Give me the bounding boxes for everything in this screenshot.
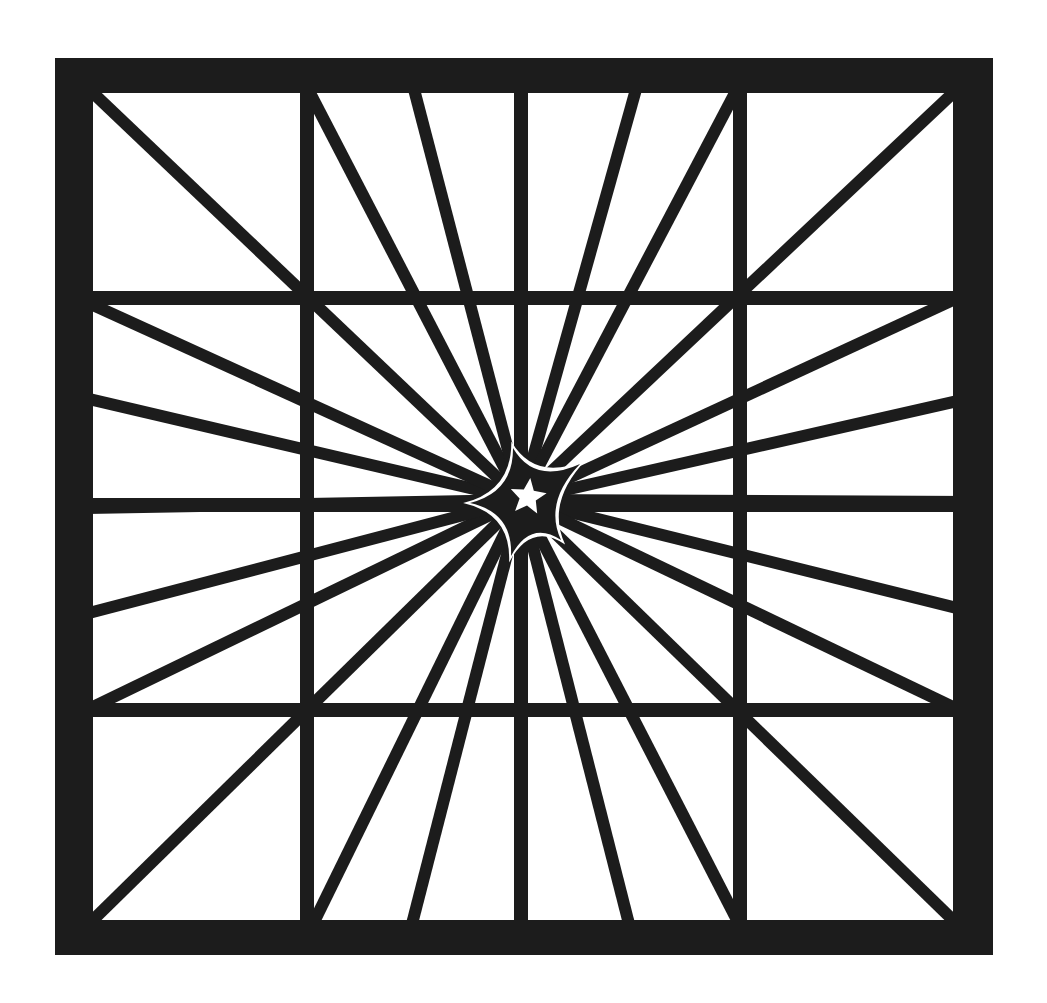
illustration-canvas bbox=[0, 0, 1047, 1003]
radiating-star-grid-illustration bbox=[0, 0, 1047, 1003]
